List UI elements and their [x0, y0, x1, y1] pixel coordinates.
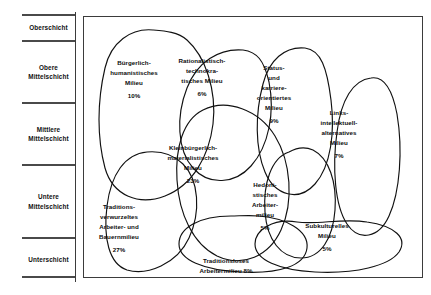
milieu-percent: 5%	[241, 223, 289, 233]
stratum-label: Untere Mittelschicht	[22, 192, 75, 211]
stratum-untere-mittelschicht: Untere Mittelschicht	[22, 164, 75, 237]
label-status-karriereorientiertes: Status- und karriere- orientiertes Milie…	[245, 53, 303, 136]
label-traditionsloses-arbeitermilieu: Traditionsloses Arbeitermilieu 8%	[178, 246, 274, 276]
social-strata-axis: Oberschicht Obere Mittelschicht Mittlere…	[22, 14, 75, 278]
axis-divider-line	[75, 12, 76, 282]
milieu-name: Rationalistisch- technokra- tisches Mili…	[179, 57, 226, 84]
stratum-mittlere-mittelschicht: Mittlere Mittelschicht	[22, 102, 75, 164]
milieu-percent: 23%	[151, 176, 235, 186]
stratum-unterschicht: Unterschicht	[22, 237, 75, 280]
stratum-label: Oberschicht	[29, 23, 67, 32]
label-traditionsverwurzeltes: Traditions- verwurzeltes Arbeiter- und B…	[84, 192, 154, 265]
label-subkulturelles: Subkulturelles Milieu 5%	[296, 211, 358, 264]
milieu-percent: 5%	[296, 244, 358, 254]
label-rationalistisch-technokratisches: Rationalistisch- technokra- tisches Mili…	[168, 46, 236, 109]
stratum-label: Mittlere Mittelschicht	[22, 125, 75, 144]
stratum-obere-mittelschicht: Obere Mittelschicht	[22, 40, 75, 102]
milieu-percent: 27%	[84, 245, 154, 255]
milieu-percent: 9%	[245, 116, 303, 126]
stratum-oberschicht: Oberschicht	[22, 16, 75, 40]
milieu-percent: 8%	[242, 267, 253, 274]
stratum-label: Unterschicht	[28, 255, 68, 264]
milieu-name: Bürgerlich- humanistisches Milieu	[110, 59, 157, 86]
milieu-name: Traditions- verwurzeltes Arbeiter- und B…	[99, 203, 139, 240]
milieu-percent: 6%	[168, 89, 236, 99]
milieu-name: Links- intellektuell- alternatives Milie…	[321, 109, 358, 146]
milieu-name: Status- und karriere- orientiertes Milie…	[257, 64, 291, 111]
milieu-name: Kleinbürgerlich- materialistisches Milie…	[167, 144, 218, 171]
label-buergerlich-humanistisches: Bürgerlich- humanistisches Milieu 10%	[95, 48, 173, 111]
milieu-name: Subkulturelles Milieu	[305, 222, 348, 239]
milieu-name: Hedoni- stisches Arbeiter- milieu	[252, 181, 278, 218]
label-hedonistisches-arbeitermilieu: Hedoni- stisches Arbeiter- milieu 5%	[241, 170, 289, 243]
label-kleinbuergerlich-materialistisches: Kleinbürgerlich- materialistisches Milie…	[151, 133, 235, 196]
sinus-milieu-diagram: Oberschicht Obere Mittelschicht Mittlere…	[0, 0, 431, 295]
milieu-percent: 10%	[95, 91, 173, 101]
label-links-intellektuell-alternatives: Links- intellektuell- alternatives Milie…	[308, 98, 370, 171]
stratum-label: Obere Mittelschicht	[22, 63, 75, 82]
milieu-percent: 7%	[308, 151, 370, 161]
